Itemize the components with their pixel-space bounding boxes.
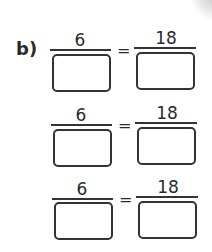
right-denominator-box[interactable] [138,201,197,239]
right-numerator: 18 [137,179,199,196]
right-denominator-box[interactable] [136,52,195,90]
equals-sign: = [117,43,130,59]
equals-sign: = [118,118,131,134]
right-fraction-bar [135,122,197,124]
right-numerator: 18 [135,30,197,47]
left-fraction-bar [51,124,112,126]
right-denominator-box[interactable] [137,127,196,165]
right-fraction-bar [136,196,198,198]
left-denominator-box[interactable] [53,129,112,167]
left-fraction-bar [50,49,111,51]
left-denominator-box[interactable] [54,202,113,240]
right-numerator: 18 [136,105,198,122]
fraction-row-2: 6 = 18 [0,105,212,185]
fraction-row-1: 6 = 18 [0,30,212,110]
left-numerator: 6 [49,32,111,49]
right-fraction-bar [134,47,196,49]
left-numerator: 6 [51,181,113,198]
equals-sign: = [119,192,132,208]
left-fraction-bar [52,198,113,200]
left-numerator: 6 [50,107,112,124]
page-corner-shadow [192,0,212,20]
left-denominator-box[interactable] [52,54,111,92]
fraction-row-3: 6 = 18 [0,179,212,252]
